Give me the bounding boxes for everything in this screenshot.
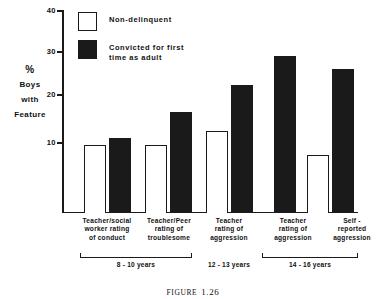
y-tick-label-10: 10 <box>47 138 56 147</box>
legend-swatch-open <box>78 12 97 31</box>
figure-caption: FIGURE1.26 <box>0 287 386 297</box>
legend-label-non-delinquent: Non-delinquent <box>109 12 172 25</box>
category-label-3: Teacher rating of aggression <box>196 217 262 242</box>
age-group-8-10: 8 - 10 years <box>80 253 192 268</box>
figure-caption-number: 1.26 <box>201 287 219 297</box>
bar-nondelinquent-3 <box>206 131 228 213</box>
bar-convicted-2 <box>170 112 192 213</box>
category-label-1: Teacher/social worker rating of conduct <box>72 217 142 242</box>
y-tick-label-40: 40 <box>47 6 56 15</box>
bar-convicted-3 <box>231 85 253 213</box>
y-axis-label-text: Boys with Feature <box>4 77 56 122</box>
category-label-row: Teacher/social worker rating of conduct … <box>62 217 358 251</box>
age-group-row: 8 - 10 years 12 - 13 years 14 - 16 years <box>62 253 358 279</box>
age-group-label-8-10: 8 - 10 years <box>80 261 192 268</box>
bar-convicted-1 <box>109 138 131 213</box>
bar-convicted-5 <box>332 69 354 213</box>
y-tick-label-20: 20 <box>47 90 56 99</box>
age-group-label-14-16: 14 - 16 years <box>262 261 358 268</box>
legend-label-convicted: Convicted for first time as adult <box>109 40 184 62</box>
legend-item-convicted: Convicted for first time as adult <box>78 40 258 62</box>
age-group-14-16: 14 - 16 years <box>262 253 358 268</box>
bar-nondelinquent-5 <box>307 155 329 213</box>
plot-area: 40 30 20 10 <box>62 10 358 213</box>
category-label-2: Teacher/Peer rating of troublesome <box>134 217 204 242</box>
legend-swatch-solid <box>78 40 97 59</box>
legend-item-non-delinquent: Non-delinquent <box>78 12 258 31</box>
category-label-4: Teacher rating of aggression <box>260 217 326 242</box>
age-group-12-13: 12 - 13 years <box>196 253 262 268</box>
age-group-label-12-13: 12 - 13 years <box>196 261 262 268</box>
figure-container: % Boys with Feature 40 30 20 10 <box>0 0 386 299</box>
figure-caption-label: FIGURE <box>167 288 198 297</box>
legend: Non-delinquent Convicted for first time … <box>78 12 258 71</box>
category-label-5: Self - reported aggression <box>319 217 385 242</box>
bar-convicted-4 <box>274 56 296 213</box>
y-tick-label-30: 30 <box>47 47 56 56</box>
bar-nondelinquent-2 <box>145 145 167 213</box>
bar-nondelinquent-1 <box>84 145 106 213</box>
y-axis-label-percent: % <box>4 62 56 77</box>
